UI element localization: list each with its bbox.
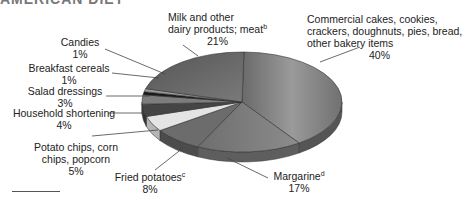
label-margarine-text: Margarine <box>273 170 320 182</box>
label-fried-text: Fried potatoes <box>115 171 182 183</box>
label-bakery-line3: other bakery items <box>307 37 462 49</box>
label-shortening-pct: 4% <box>11 119 117 131</box>
label-margarine: Margarined 17% <box>269 170 329 194</box>
label-fried-pct: 8% <box>110 183 190 195</box>
label-dairy-line1: Milk and other <box>168 11 267 23</box>
label-dairy: Milk and other dairy products; meatb 21% <box>168 11 267 47</box>
label-bakery-line1: Commercial cakes, cookies, <box>307 13 462 25</box>
label-dairy-pct: 21% <box>168 35 267 47</box>
pie-slices <box>142 52 342 162</box>
label-fried-name: Fried potatoesc <box>110 171 190 183</box>
label-margarine-pct: 17% <box>269 182 329 194</box>
label-bakery: Commercial cakes, cookies, crackers, dou… <box>307 13 462 61</box>
label-salad: Salad dressings 3% <box>27 85 103 109</box>
label-bakery-line2: crackers, doughnuts, pies, bread, <box>307 25 462 37</box>
label-candies-pct: 1% <box>56 48 104 60</box>
label-candies: Candies 1% <box>56 36 104 60</box>
label-shortening: Household shortening 4% <box>11 107 117 131</box>
footnote-d: d <box>321 170 325 177</box>
label-chips-pct: 5% <box>32 165 120 177</box>
label-chips-line2: chips, popcorn <box>32 153 120 165</box>
label-shortening-name: Household shortening <box>11 107 117 119</box>
label-chips-line1: Potato chips, corn <box>32 141 120 153</box>
footnote-c: c <box>182 171 186 178</box>
label-bakery-pct: 40% <box>307 49 462 61</box>
label-cereals-name: Breakfast cereals <box>27 62 111 74</box>
label-margarine-name: Margarined <box>269 170 329 182</box>
label-chips: Potato chips, corn chips, popcorn 5% <box>32 141 120 177</box>
label-dairy-text: dairy products; meat <box>168 23 263 35</box>
label-candies-name: Candies <box>56 36 104 48</box>
footnote-b: b <box>263 23 267 30</box>
footnote-divider <box>12 191 60 192</box>
label-dairy-line2: dairy products; meatb <box>168 23 267 35</box>
label-salad-name: Salad dressings <box>27 85 103 97</box>
label-cereals: Breakfast cereals 1% <box>27 62 111 86</box>
label-fried: Fried potatoesc 8% <box>110 171 190 195</box>
